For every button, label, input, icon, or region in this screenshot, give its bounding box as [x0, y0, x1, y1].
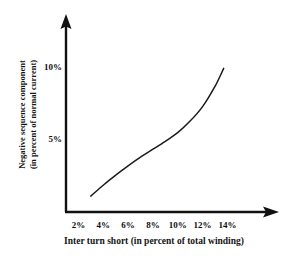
x-tick-label-14: 14%: [218, 220, 236, 230]
x-tick-label-10: 10%: [169, 220, 187, 230]
x-tick-label-8: 8%: [146, 220, 160, 230]
x-tick-label-2: 2%: [72, 220, 86, 230]
y-tick-label-10: 10%: [38, 62, 62, 72]
chart-figure: Negative sequence component (in percent …: [0, 0, 308, 263]
x-tick-label-4: 4%: [96, 220, 110, 230]
x-tick-label-6: 6%: [121, 220, 135, 230]
y-tick-label-5: 5%: [38, 134, 62, 144]
data-series-curve: [91, 68, 224, 196]
x-tick-label-12: 12%: [194, 220, 212, 230]
x-axis-title: Inter turn short (in percent of total wi…: [0, 236, 308, 246]
